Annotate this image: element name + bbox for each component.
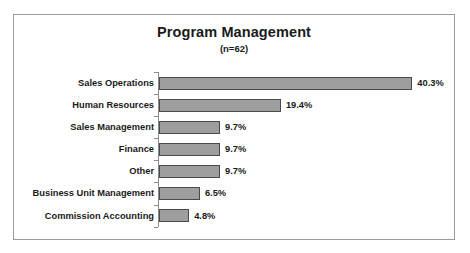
category-label: Sales Management bbox=[70, 116, 154, 138]
category-label: Finance bbox=[119, 138, 154, 160]
bar-row: Other9.7% bbox=[14, 160, 456, 182]
bar-row: Human Resources19.4% bbox=[14, 94, 456, 116]
axis-tick bbox=[154, 72, 158, 73]
bar bbox=[159, 121, 220, 134]
category-label: Commission Accounting bbox=[45, 205, 154, 227]
bar-value-label: 19.4% bbox=[286, 94, 312, 116]
bar bbox=[159, 77, 412, 90]
bar-value-label: 9.7% bbox=[225, 160, 246, 182]
plot-area: Sales Operations40.3%Human Resources19.4… bbox=[14, 70, 456, 233]
bar bbox=[159, 187, 200, 200]
bar bbox=[159, 165, 220, 178]
bar-value-label: 6.5% bbox=[205, 182, 226, 204]
bar-row: Sales Operations40.3% bbox=[14, 72, 456, 94]
bar-row: Commission Accounting4.8% bbox=[14, 205, 456, 227]
category-label: Human Resources bbox=[72, 94, 154, 116]
chart-subtitle: (n=62) bbox=[14, 42, 454, 55]
axis-tick bbox=[154, 160, 158, 161]
axis-tick bbox=[154, 182, 158, 183]
bar bbox=[159, 209, 189, 222]
bar-row: Finance9.7% bbox=[14, 138, 456, 160]
axis-tick bbox=[154, 116, 158, 117]
bar bbox=[159, 143, 220, 156]
chart-title-block: Program Management (n=62) bbox=[14, 24, 454, 55]
axis-tick bbox=[154, 138, 158, 139]
page-title: Program Management bbox=[14, 24, 454, 41]
bar-rows: Sales Operations40.3%Human Resources19.4… bbox=[14, 72, 456, 227]
bar-value-label: 9.7% bbox=[225, 116, 246, 138]
axis-tick bbox=[154, 227, 158, 228]
category-label: Business Unit Management bbox=[33, 182, 154, 204]
bar-value-label: 9.7% bbox=[225, 138, 246, 160]
axis-tick bbox=[154, 94, 158, 95]
bar-row: Business Unit Management6.5% bbox=[14, 182, 456, 204]
bar bbox=[159, 99, 281, 112]
axis-tick bbox=[154, 205, 158, 206]
chart-frame: Program Management (n=62) Sales Operatio… bbox=[13, 14, 455, 240]
bar-row: Sales Management9.7% bbox=[14, 116, 456, 138]
bar-value-label: 40.3% bbox=[417, 72, 443, 94]
category-label: Other bbox=[129, 160, 154, 182]
category-label: Sales Operations bbox=[78, 72, 154, 94]
bar-value-label: 4.8% bbox=[194, 205, 215, 227]
